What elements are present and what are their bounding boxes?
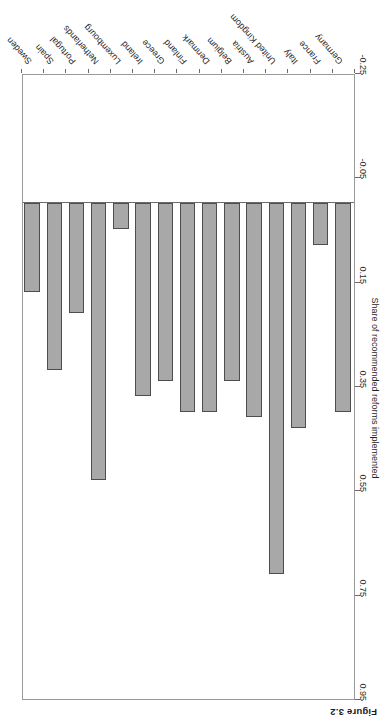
x-tick-label: Sweden [5,35,34,66]
bar-greece [158,203,174,380]
x-tick-mark [110,69,111,73]
x-tick-mark [332,69,333,73]
x-tick-mark [154,69,155,73]
bar-spain [47,203,63,370]
bar-france [313,203,329,245]
bar-belgium [224,203,240,380]
plot-frame [22,74,355,700]
x-tick-mark [43,69,44,73]
x-tick-mark [310,69,311,73]
bar-finland [180,203,196,412]
bar-chart: Share of recommended reforms implemented… [0,10,385,700]
y-axis-title: Share of recommended reforms implemented [370,278,380,498]
x-tick-mark [287,69,288,73]
y-tick-label: -0.25 [358,53,368,75]
x-tick-mark [199,69,200,73]
y-tick-label: 0.75 [358,575,368,597]
bar-italy [291,203,307,427]
bars-layer [23,75,354,699]
x-tick-mark [265,69,266,73]
bar-sweden [24,203,40,292]
bar-denmark [202,203,218,412]
figure-rotator: Figure 3.2 Share of recommended reforms … [0,0,385,722]
x-tick-mark [176,69,177,73]
y-tick-label: 0.15 [358,262,368,284]
x-tick-mark [132,69,133,73]
bar-luxembourg [113,203,129,229]
y-tick-label: 0.35 [358,366,368,388]
bar-austria [246,203,262,417]
x-tick-mark [243,69,244,73]
x-tick-mark [65,69,66,73]
bar-portugal [69,203,85,313]
x-tick-mark [221,69,222,73]
y-tick-label: -0.05 [358,157,368,179]
bar-netherlands [91,203,107,479]
x-tick-mark [88,69,89,73]
x-tick-mark [21,69,22,73]
bar-united-kingdom [269,203,285,573]
y-tick-label: 0.55 [358,470,368,492]
x-tick-mark [354,69,355,73]
bar-ireland [135,203,151,396]
y-tick-label: 0.95 [358,679,368,701]
x-tick-label: Italy [282,47,300,66]
bar-germany [335,203,351,412]
figure-caption: Figure 3.2 [330,707,377,718]
